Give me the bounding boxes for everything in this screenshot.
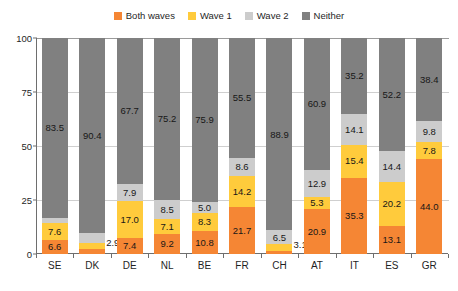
bar-value-label: 35.3 [345, 211, 364, 221]
bar-segment: 10.8 [192, 231, 218, 254]
y-axis-tick-label: 75 [21, 87, 32, 98]
bar-value-label: 5.3 [310, 198, 323, 208]
bar-segment: 67.7 [117, 38, 143, 184]
bar-segment: 75.2 [154, 38, 180, 200]
bar-value-label: 8.3 [198, 217, 211, 227]
x-axis-tick-label: ES [372, 260, 412, 271]
bar-segment: 1.4 [266, 251, 292, 254]
bar-segment: 17.0 [117, 201, 143, 238]
x-axis-tick-label: DE [110, 260, 150, 271]
bar-value-label: 75.9 [195, 115, 214, 125]
x-axis-tick-label: FR [222, 260, 262, 271]
legend-item: Both waves [114, 10, 175, 21]
bar-value-label: 14.1 [345, 125, 364, 135]
legend-swatch-icon [245, 12, 253, 20]
bar-segment: 60.9 [304, 38, 330, 170]
bar-segment: 20.2 [379, 182, 405, 226]
bar-segment: 55.5 [229, 38, 255, 158]
bar-segment: 9.2 [154, 234, 180, 254]
x-axis-tick-label: IT [334, 260, 374, 271]
bar-segment: 7.6 [42, 223, 68, 239]
bar-value-label: 88.9 [270, 130, 289, 140]
bar-value-label: 38.4 [420, 75, 439, 85]
bar-segment: 5.3 [304, 197, 330, 208]
bar-value-label: 17.0 [120, 215, 139, 225]
bar-segment: 38.4 [416, 38, 442, 121]
bar-segment: 14.2 [229, 176, 255, 207]
bar-segment: 3.1 [266, 244, 292, 251]
legend-item-label: Neither [314, 10, 345, 21]
bar-value-label: 7.9 [123, 188, 136, 198]
bar-segment: 44.0 [416, 159, 442, 254]
bar-group: 1.43.16.588.9 [266, 38, 292, 254]
bar-segment: 15.4 [341, 145, 367, 178]
chart-legend: Both wavesWave 1Wave 2Neither [0, 10, 458, 21]
bar-value-label: 6.6 [48, 242, 61, 252]
bar-value-label: 35.2 [345, 71, 364, 81]
legend-item: Wave 1 [188, 10, 232, 21]
bar-stack: 13.120.214.452.2 [379, 38, 405, 254]
x-axis-tick-mark [298, 254, 299, 258]
x-axis-tick-mark [186, 254, 187, 258]
legend-item-label: Wave 2 [257, 10, 289, 21]
bar-value-label: 14.4 [383, 162, 402, 172]
bar-group: 7.417.07.967.7 [117, 38, 143, 254]
y-axis-tick-label: 0 [27, 249, 32, 260]
x-axis-tick-mark [373, 254, 374, 258]
bar-segment: 2.9 [79, 243, 105, 249]
bar-segment: 2.4 [79, 249, 105, 254]
bars-layer: 6.67.62.383.5SE2.42.94.390.4DK7.417.07.9… [36, 38, 448, 254]
bar-group: 35.315.414.135.2 [341, 38, 367, 254]
bar-segment: 7.1 [154, 219, 180, 234]
bar-segment: 90.4 [79, 38, 105, 233]
bar-stack: 10.88.35.075.9 [192, 38, 218, 254]
bar-group: 20.95.312.960.9 [304, 38, 330, 254]
bar-value-label: 9.8 [423, 127, 436, 137]
bar-value-label: 60.9 [308, 99, 327, 109]
bar-value-label: 8.6 [235, 162, 248, 172]
bar-segment: 14.1 [341, 114, 367, 144]
legend-item-label: Both waves [126, 10, 175, 21]
bar-segment: 14.4 [379, 151, 405, 182]
bar-value-label: 5.0 [198, 203, 211, 213]
x-axis-tick-label: DK [72, 260, 112, 271]
x-axis-tick-mark [36, 254, 37, 258]
bar-value-label: 7.8 [423, 146, 436, 156]
bar-stack: 1.43.16.588.9 [266, 38, 292, 254]
bar-value-label: 7.1 [160, 222, 173, 232]
x-axis-tick-label: SE [35, 260, 75, 271]
x-axis-tick-mark [448, 254, 449, 258]
bar-segment: 75.9 [192, 38, 218, 202]
bar-stack: 2.42.94.390.4 [79, 38, 105, 254]
bar-segment: 9.8 [416, 121, 442, 142]
stacked-bar-chart: Both wavesWave 1Wave 2Neither 0255075100… [0, 0, 458, 291]
bar-group: 44.07.89.838.4 [416, 38, 442, 254]
bar-value-label: 52.2 [383, 90, 402, 100]
y-axis-tick-label: 100 [16, 33, 32, 44]
bar-segment: 5.0 [192, 202, 218, 213]
bar-value-label: 12.9 [308, 179, 327, 189]
bar-value-label: 10.8 [195, 238, 214, 248]
bar-group: 6.67.62.383.5 [42, 38, 68, 254]
legend-swatch-icon [302, 12, 310, 20]
bar-segment: 7.8 [416, 142, 442, 159]
bar-segment: 8.3 [192, 213, 218, 231]
bar-stack: 6.67.62.383.5 [42, 38, 68, 254]
bar-value-label: 67.7 [120, 106, 139, 116]
bar-group: 13.120.214.452.2 [379, 38, 405, 254]
bar-value-label: 15.4 [345, 156, 364, 166]
bar-value-label: 7.6 [48, 227, 61, 237]
bar-segment: 20.9 [304, 209, 330, 254]
x-axis-tick-mark [223, 254, 224, 258]
bar-segment: 12.9 [304, 170, 330, 198]
x-axis-tick-label: AT [297, 260, 337, 271]
x-axis-tick-mark [336, 254, 337, 258]
y-axis-tick-label: 50 [21, 141, 32, 152]
bar-segment: 88.9 [266, 38, 292, 230]
bar-value-label: 21.7 [233, 226, 252, 236]
bar-value-label: 55.5 [233, 93, 252, 103]
bar-stack: 20.95.312.960.9 [304, 38, 330, 254]
x-axis-tick-label: CH [259, 260, 299, 271]
x-axis-tick-mark [73, 254, 74, 258]
bar-segment: 21.7 [229, 207, 255, 254]
